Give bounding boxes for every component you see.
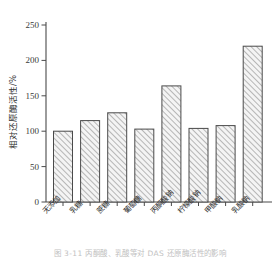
figure-container: 0 50 100 150 200 250 相对还原酶活性/%: [0, 0, 280, 258]
bar-0: [54, 131, 73, 202]
bar-chart: 0 50 100 150 200 250 相对还原酶活性/%: [0, 0, 280, 258]
bar-4: [162, 86, 181, 202]
bar-7: [243, 46, 262, 202]
bar-1: [81, 121, 100, 202]
bar-5: [189, 128, 208, 202]
y-tick-label-250: 250: [26, 20, 40, 30]
y-axis-ticks: [42, 25, 47, 202]
x-axis-ticks: [63, 202, 253, 206]
y-tick-label-150: 150: [26, 91, 40, 101]
y-tick-label-0: 0: [35, 197, 40, 207]
y-tick-label-200: 200: [26, 55, 40, 65]
bar-2: [108, 113, 127, 202]
y-axis-title: 相对还原酶活性/%: [8, 75, 18, 149]
figure-caption: 图 3-11 丙酮酸、乳酸等对 DAS 还原酶活性的影响: [0, 247, 280, 258]
bar-6: [216, 126, 235, 202]
y-tick-label-50: 50: [30, 162, 40, 172]
y-tick-label-100: 100: [26, 126, 40, 136]
bar-3: [135, 129, 154, 202]
